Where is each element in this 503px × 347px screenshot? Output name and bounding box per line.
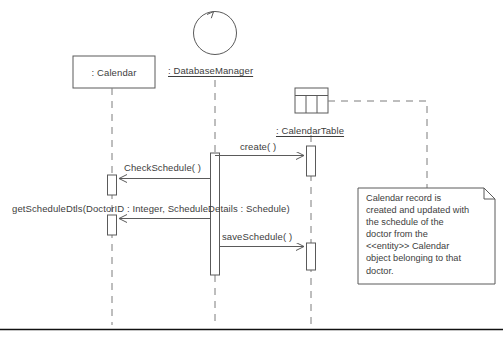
participant-label-databasemanager: : DatabaseManager bbox=[168, 65, 253, 76]
activation-calendar-checkschedule bbox=[108, 175, 117, 195]
activation-calendartable-saveschedule bbox=[307, 243, 316, 270]
participant-label-calendar: : Calendar bbox=[73, 56, 155, 88]
participant-calendartable[interactable] bbox=[295, 88, 328, 113]
message-label-create: create( ) bbox=[240, 141, 276, 152]
participant-databasemanager[interactable] bbox=[194, 12, 237, 55]
note-connector bbox=[328, 101, 427, 188]
sequence-diagram-canvas: : Calendar : DatabaseManager : CalendarT… bbox=[0, 0, 503, 347]
participant-label-calendartable: : CalendarTable bbox=[276, 125, 344, 136]
activation-calendar-getscheduledtls bbox=[108, 215, 117, 235]
message-label-checkschedule: CheckSchedule( ) bbox=[124, 162, 201, 173]
activation-calendartable-create bbox=[307, 146, 316, 176]
activation-databasemanager bbox=[211, 153, 220, 275]
message-label-getscheduledtls: getScheduleDtls(DoctorID : Integer, Sche… bbox=[12, 203, 290, 214]
diagram-vector-layer bbox=[0, 0, 503, 347]
message-label-saveschedule: saveSchedule( ) bbox=[222, 231, 292, 242]
note-body-text: Calendar record is created and updated w… bbox=[366, 192, 491, 277]
